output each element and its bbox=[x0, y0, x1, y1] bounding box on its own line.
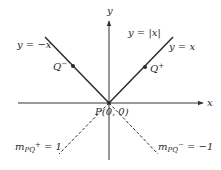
slope-pq-plus-label: mPQ+ = 1 bbox=[15, 141, 62, 154]
slope-pq-minus-label: mPQ− = −1 bbox=[158, 141, 213, 154]
secant-pq-minus bbox=[109, 103, 158, 154]
curve-right-branch bbox=[109, 37, 173, 103]
q-minus-label: Q− bbox=[53, 60, 67, 72]
p-origin-label: P(0, 0) bbox=[94, 106, 129, 117]
function-label: y = |x| bbox=[127, 27, 161, 39]
secant-pq-plus bbox=[59, 103, 109, 154]
absolute-value-diagram: x y y = −x y = x y = |x| Q− Q+ P(0, 0) m… bbox=[0, 0, 221, 170]
q-plus-label: Q+ bbox=[150, 62, 164, 74]
right-branch-label: y = x bbox=[168, 41, 195, 52]
x-axis-label: x bbox=[207, 97, 213, 108]
y-axis-label: y bbox=[106, 5, 113, 16]
left-branch-label: y = −x bbox=[16, 39, 52, 50]
point-q-plus bbox=[143, 65, 147, 69]
point-q-minus bbox=[71, 64, 75, 68]
